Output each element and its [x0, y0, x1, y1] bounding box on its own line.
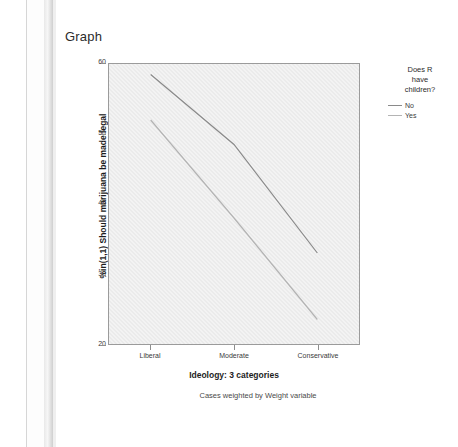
x-axis-ticks: LiberalModerateConservative — [108, 345, 360, 369]
y-tick-mark — [101, 204, 106, 205]
outline-tree-container[interactable] — [26, 0, 46, 447]
legend-swatch — [388, 105, 402, 106]
x-tick-label: Moderate — [189, 352, 279, 359]
y-tick-mark — [101, 63, 106, 64]
legend-swatch — [388, 115, 402, 116]
legend-items: NoYes — [386, 100, 454, 120]
chart-footnote: Cases weighted by Weight variable — [108, 391, 408, 400]
x-tick-mark — [150, 345, 151, 350]
legend-label: Yes — [405, 112, 416, 119]
x-tick-mark — [234, 345, 235, 350]
chart-container: %in(1,1) Should marijuana be made legal … — [56, 46, 458, 426]
x-tick-label: Conservative — [273, 352, 363, 359]
plot-lines — [109, 64, 359, 344]
y-tick-mark — [101, 134, 106, 135]
legend-item[interactable]: No — [388, 100, 454, 110]
chart-legend: Does R have children? NoYes — [386, 65, 454, 120]
plot-area — [108, 63, 360, 345]
y-tick-mark — [101, 275, 106, 276]
legend-title: Does R have children? — [386, 65, 454, 95]
output-content-pane: Graph %in(1,1) Should marijuana be made … — [56, 0, 458, 447]
x-tick-label: Liberal — [105, 352, 195, 359]
y-tick-mark — [101, 345, 106, 346]
page-title: Graph — [65, 29, 102, 44]
legend-item[interactable]: Yes — [388, 110, 454, 120]
series-line-no — [151, 74, 318, 253]
y-axis-ticks: 2030405060 — [76, 63, 106, 345]
x-tick-mark — [318, 345, 319, 350]
legend-label: No — [405, 102, 414, 109]
outline-navigator-pane — [0, 0, 56, 447]
spss-output-window: Graph %in(1,1) Should marijuana be made … — [0, 0, 458, 447]
x-axis-title: Ideology: 3 categories — [108, 370, 360, 380]
